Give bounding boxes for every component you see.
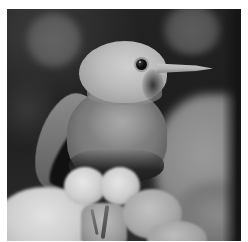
bird-eye (136, 59, 147, 70)
bird-throat-shadow (142, 69, 164, 101)
bokeh-circle-left (25, 11, 83, 69)
bird-eye-highlight (139, 61, 141, 63)
photo-frame (7, 9, 241, 241)
right-edge-shadow (222, 9, 241, 241)
